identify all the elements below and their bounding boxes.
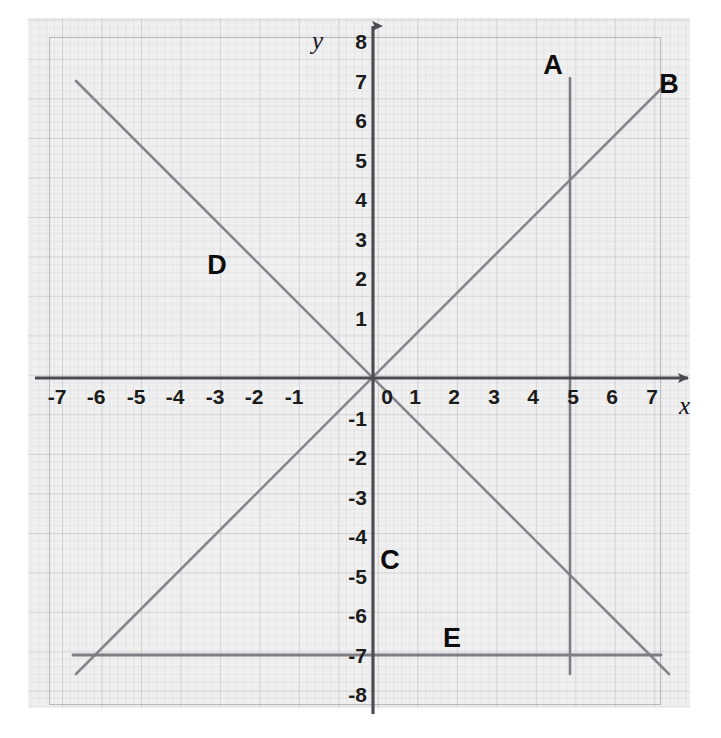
line-label-c: C bbox=[380, 547, 400, 574]
y-tick-label-2: 2 bbox=[355, 268, 367, 289]
y-tick-label--6: -6 bbox=[348, 605, 367, 626]
y-tick-label-4: 4 bbox=[355, 189, 367, 210]
x-tick-label-6: 6 bbox=[606, 386, 618, 407]
coordinate-plane-figure: -7 -6 -5 -4 -3 -2 -1 0 1 2 3 4 5 6 7 8 7… bbox=[0, 0, 721, 738]
y-tick-label-5: 5 bbox=[355, 150, 367, 171]
y-tick-label-7: 7 bbox=[355, 71, 367, 92]
y-tick-label-6: 6 bbox=[355, 110, 367, 131]
y-tick-label-1: 1 bbox=[355, 308, 367, 329]
x-tick-label-2: 2 bbox=[448, 386, 460, 407]
x-tick-label-5: 5 bbox=[567, 386, 579, 407]
y-tick-label--8: -8 bbox=[348, 684, 367, 705]
x-tick-label--1: -1 bbox=[285, 386, 304, 407]
y-tick-label--1: -1 bbox=[348, 408, 367, 429]
x-tick-label-1: 1 bbox=[409, 386, 421, 407]
x-tick-label-4: 4 bbox=[527, 386, 539, 407]
x-tick-label--5: -5 bbox=[127, 386, 146, 407]
x-tick-label--3: -3 bbox=[206, 386, 225, 407]
x-tick-label-3: 3 bbox=[488, 386, 500, 407]
y-tick-label--2: -2 bbox=[348, 447, 367, 468]
line-label-e: E bbox=[443, 625, 461, 652]
x-tick-label--2: -2 bbox=[245, 386, 264, 407]
y-tick-label--5: -5 bbox=[348, 566, 367, 587]
x-axis-name: x bbox=[679, 393, 690, 418]
y-tick-label--3: -3 bbox=[348, 487, 367, 508]
x-tick-label-7: 7 bbox=[646, 386, 658, 407]
y-tick-label--4: -4 bbox=[348, 526, 367, 547]
x-tick-label-0: 0 bbox=[381, 386, 393, 407]
line-label-d: D bbox=[207, 252, 227, 279]
x-tick-label--6: -6 bbox=[87, 386, 106, 407]
x-tick-label--7: -7 bbox=[48, 386, 67, 407]
y-tick-label-3: 3 bbox=[355, 229, 367, 250]
y-tick-label--7: -7 bbox=[348, 645, 367, 666]
line-label-b: B bbox=[659, 71, 679, 98]
x-tick-label--4: -4 bbox=[166, 386, 185, 407]
y-axis-name: y bbox=[312, 28, 323, 53]
y-tick-label-8: 8 bbox=[355, 31, 367, 52]
line-label-a: A bbox=[543, 52, 563, 79]
